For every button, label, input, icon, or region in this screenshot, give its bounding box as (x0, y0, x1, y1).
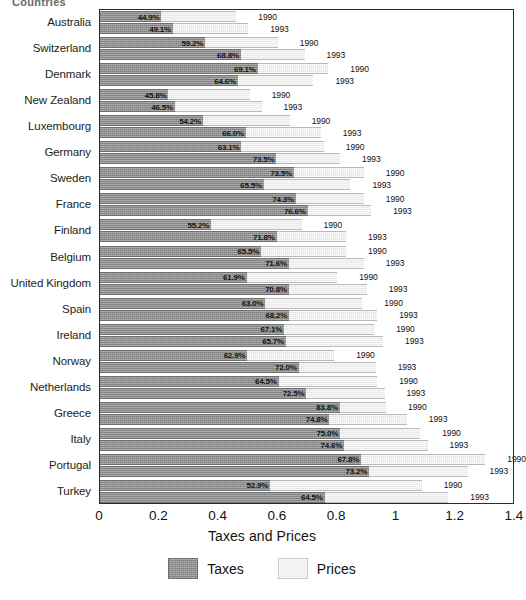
bar-year-label: 1990 (258, 12, 277, 22)
bar-row: 55.2%1990 (100, 219, 515, 230)
bar-year-label: 1993 (470, 492, 489, 502)
bar-row: 72.0%1993 (100, 362, 515, 373)
x-tick-label: 1.4 (505, 508, 524, 523)
bar-row: 75.0%1990 (100, 428, 515, 439)
bar-year-label: 1990 (350, 64, 369, 74)
x-axis-title: Taxes and Prices (0, 528, 524, 544)
bar-year-label: 1993 (490, 466, 509, 476)
bar-value-label: 74.8% (100, 415, 327, 424)
bar-year-label: 1993 (270, 24, 289, 34)
bar-row: 65.5%1990 (100, 246, 515, 257)
bar-value-label: 76.6% (100, 206, 306, 215)
bar-row: 49.1%1993 (100, 23, 515, 34)
bar-year-label: 1993 (368, 232, 387, 242)
bar-value-label: 49.1% (100, 24, 171, 33)
category-label: Denmark (45, 68, 91, 80)
legend-entry-prices[interactable]: Prices (278, 558, 356, 579)
category-label: Netherlands (30, 381, 91, 393)
bars-layer: 44.9%199049.1%199359.2%199068.8%199369.1… (100, 10, 513, 503)
bar-value-label: 68.8% (100, 50, 239, 59)
category-axis: AustraliaSwitzerlandDenmarkNew ZealandLu… (0, 9, 95, 504)
bar-row: 54.2%1990 (100, 115, 515, 126)
bar-row: 76.6%1993 (100, 205, 515, 216)
bar-row: 64.5%1990 (100, 376, 515, 387)
bar-year-label: 1993 (343, 128, 362, 138)
chart-legend: TaxesPrices (0, 558, 524, 579)
bar-year-label: 1990 (300, 38, 319, 48)
bar-year-label: 1990 (444, 480, 463, 490)
bar-row: 74.6%1993 (100, 440, 515, 451)
bar-row: 71.6%1993 (100, 258, 515, 269)
bar-year-label: 1990 (359, 272, 378, 282)
bar-value-label: 71.6% (100, 259, 287, 268)
legend-entry-taxes[interactable]: Taxes (168, 558, 244, 579)
bar-year-label: 1993 (393, 206, 412, 216)
bar-value-label: 63.0% (100, 299, 263, 308)
bar-value-label: 63.1% (100, 142, 239, 151)
bar-row: 63.0%1990 (100, 298, 515, 309)
category-label: United Kingdom (11, 277, 91, 289)
bar-value-label: 62.9% (100, 351, 245, 360)
bar-year-label: 1993 (284, 102, 303, 112)
bar-year-label: 1990 (408, 402, 427, 412)
legend-label-prices: Prices (317, 561, 356, 577)
bar-value-label: 65.5% (100, 180, 262, 189)
bar-year-label: 1990 (384, 298, 403, 308)
bar-value-label: 45.8% (100, 90, 166, 99)
bar-row: 68.8%1993 (100, 49, 515, 60)
bar-row: 68.2%1993 (100, 310, 515, 321)
bar-value-label: 59.2% (100, 38, 203, 47)
bar-value-label: 66.0% (100, 128, 244, 137)
bar-row: 67.1%1990 (100, 324, 515, 335)
bar-row: 62.9%1990 (100, 350, 515, 361)
bar-value-label: 67.8% (100, 455, 359, 464)
category-label: Sweden (50, 172, 91, 184)
bar-row: 52.9%1990 (100, 480, 515, 491)
bar-value-label: 55.2% (100, 220, 209, 229)
bar-year-label: 1993 (386, 258, 405, 268)
category-label: Italy (70, 433, 91, 445)
bar-row: 63.1%1990 (100, 141, 515, 152)
bar-row: 59.2%1990 (100, 37, 515, 48)
bar-year-label: 1990 (386, 194, 405, 204)
bar-year-label: 1993 (389, 284, 408, 294)
value-axis: Taxes and Prices 00.20.40.60.811.21.4 (0, 504, 524, 534)
bar-value-label: 44.9% (100, 12, 159, 21)
bar-row: 73.5%1990 (100, 167, 515, 178)
bar-row: 65.5%1993 (100, 179, 515, 190)
bar-row: 64.5%1993 (100, 492, 515, 503)
bar-value-label: 67.1% (100, 325, 282, 334)
bar-year-label: 1993 (429, 414, 448, 424)
category-label: Germany (44, 146, 91, 158)
legend-label-taxes: Taxes (207, 561, 244, 577)
bar-value-label: 65.7% (100, 337, 284, 346)
bar-row: 70.8%1993 (100, 284, 515, 295)
legend-swatch-taxes (168, 558, 198, 579)
category-label: Turkey (57, 485, 91, 497)
bar-row: 69.1%1990 (100, 63, 515, 74)
bar-value-label: 73.5% (100, 168, 292, 177)
bar-year-label: 1990 (356, 350, 375, 360)
bar-row: 72.5%1993 (100, 388, 515, 399)
category-label: Finland (54, 224, 91, 236)
bar-value-label: 83.8% (100, 403, 338, 412)
category-label: New Zealand (24, 94, 91, 106)
bar-year-label: 1993 (372, 180, 391, 190)
category-label: Portugal (49, 459, 91, 471)
bar-year-label: 1990 (442, 428, 461, 438)
x-tick-label: 1.2 (445, 508, 464, 523)
x-tick-label: 0 (95, 508, 103, 523)
bar-value-label: 46.5% (100, 102, 173, 111)
bar-value-label: 73.5% (100, 154, 274, 163)
bar-year-label: 1990 (312, 116, 331, 126)
bar-year-label: 1990 (507, 454, 526, 464)
bar-value-label: 64.5% (100, 493, 323, 502)
x-tick-label: 0.8 (327, 508, 346, 523)
bar-year-label: 1990 (399, 376, 418, 386)
bar-value-label: 69.1% (100, 64, 256, 73)
x-tick-label: 1 (392, 508, 400, 523)
category-label: Spain (62, 303, 91, 315)
plot-area: 44.9%199049.1%199359.2%199068.8%199369.1… (99, 9, 514, 504)
bar-year-label: 1993 (399, 310, 418, 320)
